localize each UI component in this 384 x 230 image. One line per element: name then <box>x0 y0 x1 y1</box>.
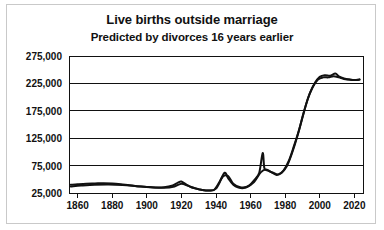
y-axis-tick-label: 175,000 <box>10 105 62 116</box>
y-axis-tick-label: 225,000 <box>10 78 62 89</box>
chart-figure: Live births outside marriage Predicted b… <box>6 4 376 224</box>
y-axis-tick-label: 25,000 <box>10 188 62 199</box>
x-axis-tick-label: 2020 <box>334 200 374 211</box>
chart-canvas <box>7 5 377 225</box>
y-axis-tick-label: 125,000 <box>10 133 62 144</box>
y-axis-tick-label: 275,000 <box>10 51 62 62</box>
y-axis-tick-label: 75,000 <box>10 160 62 171</box>
plot-area: 275,000225,000175,000125,00075,00025,000… <box>7 5 377 225</box>
